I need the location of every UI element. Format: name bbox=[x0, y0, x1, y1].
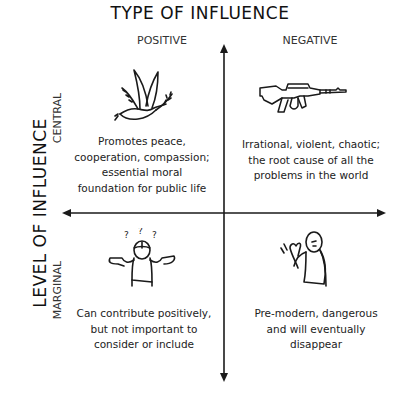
assault-rifle-icon bbox=[258, 78, 350, 116]
arrow-down-icon bbox=[220, 373, 228, 382]
svg-text:?: ? bbox=[138, 228, 143, 236]
dismissive-waving-person-icon bbox=[276, 230, 336, 290]
svg-text:?: ? bbox=[152, 230, 157, 240]
svg-text:?: ? bbox=[124, 230, 129, 240]
shrugging-person-icon: ? ? ? bbox=[104, 228, 176, 290]
arrow-up-icon bbox=[220, 44, 228, 53]
quadrant-central-negative-text: Irrational, violent, chaotic; the root c… bbox=[226, 137, 396, 184]
arrow-right-icon bbox=[377, 209, 386, 217]
quadrant-marginal-positive-text: Can contribute positively, but not impor… bbox=[64, 306, 224, 353]
quadrant-marginal-negative-text: Pre-modern, dangerous and will eventuall… bbox=[236, 306, 396, 353]
quadrant-central-positive-text: Promotes peace, cooperation, compassion;… bbox=[62, 134, 222, 196]
dove-with-olive-branch-icon bbox=[112, 62, 176, 126]
arrow-left-icon bbox=[62, 209, 71, 217]
